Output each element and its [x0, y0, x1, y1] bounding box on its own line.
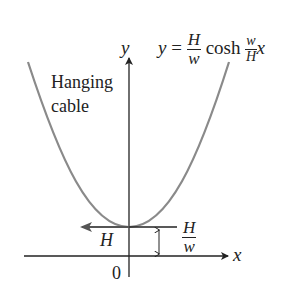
y-axis-label: y	[121, 38, 129, 57]
equation-fraction-h-over-w: H w	[187, 31, 201, 68]
catenary-diagram: y y = H w cosh w H x Hanging cable H H w…	[0, 0, 304, 293]
hanging-cable-label-line2: cable	[51, 97, 89, 115]
equation-equals: =	[171, 37, 182, 58]
equation-lhs: y	[158, 37, 166, 58]
catenary-equation: y = H w cosh w H x	[158, 31, 265, 68]
equation-x: x	[257, 37, 265, 58]
height-label: H w	[182, 219, 196, 256]
equation-fraction-w-over-h: w H	[245, 34, 256, 64]
origin-label: 0	[112, 264, 121, 282]
x-axis-label: x	[233, 245, 241, 264]
equation-cosh: cosh	[206, 37, 241, 58]
hanging-cable-label-line1: Hanging	[51, 73, 113, 91]
force-label: H	[100, 231, 113, 249]
